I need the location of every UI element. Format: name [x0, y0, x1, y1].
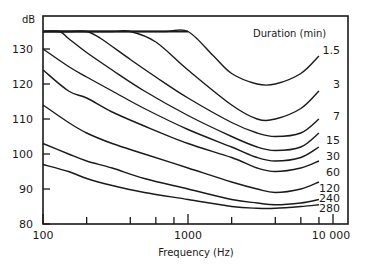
series-label-30: 30 — [326, 150, 340, 163]
x-tick-label: 10 000 — [312, 229, 351, 242]
curve-60-min — [43, 70, 319, 172]
curve-30-min — [43, 49, 319, 161]
y-tick-label: 100 — [12, 148, 33, 161]
x-axis-title: Frequency (Hz) — [158, 247, 234, 258]
curve-240-min — [43, 144, 319, 205]
x-tick-label: 1000 — [174, 229, 202, 242]
y-axis-title: dB — [22, 14, 35, 25]
series-label-3: 3 — [333, 78, 340, 91]
y-tick-label: 120 — [12, 78, 33, 91]
x-tick-label: 100 — [33, 229, 54, 242]
series-label-60: 60 — [326, 166, 340, 179]
y-tick-label: 110 — [12, 113, 33, 126]
series-label-1-5: 1.5 — [323, 44, 341, 57]
chart-svg: 8090100110120130100100010 000dBFrequency… — [0, 0, 380, 274]
curves — [43, 30, 319, 209]
y-tick-label: 80 — [19, 218, 33, 231]
series-label-280: 280 — [319, 202, 340, 215]
legend-title: Duration (min) — [253, 28, 326, 39]
axis-ticks — [43, 49, 333, 224]
series-label-7: 7 — [333, 110, 340, 123]
chart: 8090100110120130100100010 000dBFrequency… — [0, 0, 380, 274]
axis-labels: 8090100110120130100100010 000dBFrequency… — [12, 14, 350, 258]
series-labels: 1.537153060120240280 — [319, 44, 340, 215]
y-tick-label: 130 — [12, 43, 33, 56]
series-label-15: 15 — [326, 134, 340, 147]
y-tick-label: 90 — [19, 183, 33, 196]
